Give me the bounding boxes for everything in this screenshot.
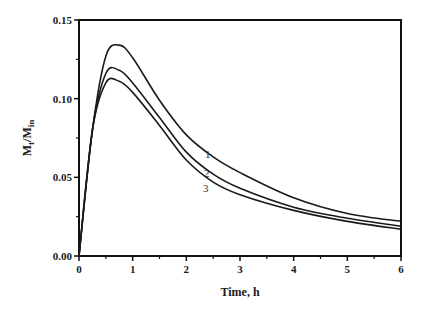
- y-tick-label: 0.10: [53, 93, 73, 105]
- curve-label-1: 1: [205, 148, 211, 160]
- x-tick-label: 1: [130, 263, 136, 275]
- y-axis-title: Mt/Min: [20, 120, 36, 157]
- y-tick-label: 0.15: [53, 14, 73, 26]
- y-tick-label: 0.05: [53, 171, 73, 183]
- x-tick-label: 5: [345, 263, 351, 275]
- x-axis-title: Time, h: [220, 285, 259, 299]
- x-tick-label: 3: [237, 263, 243, 275]
- x-tick-label: 6: [398, 263, 404, 275]
- curve-label-3: 3: [203, 182, 209, 194]
- x-tick-label: 4: [291, 263, 297, 275]
- curve-series-3: [79, 78, 401, 256]
- x-tick-label: 0: [76, 263, 82, 275]
- line-chart: 01234560.000.050.100.15Time, hMt/Min123: [0, 0, 424, 310]
- curve-label-2: 2: [204, 167, 210, 179]
- y-tick-label: 0.00: [53, 250, 73, 262]
- plot-frame: [79, 20, 401, 256]
- x-tick-label: 2: [184, 263, 190, 275]
- curve-series-2: [79, 68, 401, 256]
